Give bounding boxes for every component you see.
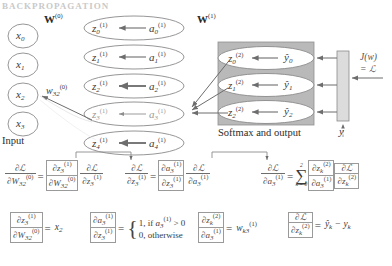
eq3-f1-num: ∂zk(2) [310, 161, 333, 175]
output-node-yhat-label-0: ŷ0 [284, 52, 292, 65]
eq4-equals: = [43, 222, 53, 234]
hidden-node-a-label-1: a1(1) [149, 51, 166, 65]
output-node-yhat-label-2: ŷ2 [284, 106, 292, 119]
hidden-node-z-label-1: z1(1) [92, 51, 107, 65]
eq2-lhs-den: ∂z3(1) [125, 174, 148, 188]
eq1-lhs-num: ∂ℒ [13, 164, 27, 173]
eq3-sum-lower: k = 0 [296, 182, 308, 188]
eq5-den: ∂z3(1) [92, 228, 115, 242]
eq1-equals: = [36, 170, 46, 182]
weight-matrix-0-label: W(0) [44, 13, 63, 25]
forward-fan-faint-2 [40, 100, 96, 140]
eq4-fraction: ∂z3(1) ∂W32(0) [10, 212, 43, 243]
eq3-lhs-num: ∂ℒ [266, 164, 280, 173]
eq6-fraction: ∂zk(2) ∂a3(1) [198, 212, 224, 243]
eq5-num: ∂a3(1) [91, 213, 115, 227]
eq3-equals: = [285, 170, 295, 182]
eq3-factor2-fraction: ∂ℒ ∂zk(2) [334, 163, 359, 189]
eq7-den: ∂zk(2) [289, 223, 312, 237]
equation-5: ∂a3(1) ∂z3(1) = { 1, if a3(1) > 0 0, oth… [90, 212, 185, 243]
loss-bar [337, 51, 349, 121]
eq3-lhs-fraction: ∂ℒ ∂a3(1) [261, 164, 285, 188]
eq2-factor1-fraction: ∂a3(1) ∂z3(1) [158, 160, 184, 191]
eq7-fraction: ∂ℒ ∂zk(2) [288, 212, 313, 238]
eq3-lhs-den: ∂a3(1) [261, 174, 285, 188]
hidden-node-a-label-3: a3(1) [149, 108, 166, 122]
eq1-f2-num: ∂ℒ [85, 164, 99, 173]
eq1-factor1-fraction: ∂z3(1) ∂W32(0) [46, 160, 79, 191]
eq7-rhs: ŷk − yk [323, 219, 351, 231]
chain-connector-2 [212, 152, 267, 160]
hidden-node-a-label-4: a4(1) [149, 137, 166, 151]
hidden-node-a-label-0: a0(1) [149, 22, 166, 36]
equation-6: ∂zk(2) ∂a3(1) = wk3(1) [198, 212, 257, 243]
eq5-fraction: ∂a3(1) ∂z3(1) [90, 212, 116, 243]
hidden-node-z-label-2: z2(1) [92, 80, 107, 94]
eq5-cases: 1, if a3(1) > 0 0, otherwise [139, 215, 185, 240]
eq2-lhs-fraction: ∂ℒ ∂z3(1) [125, 164, 148, 188]
eq2-f1-num: ∂a3(1) [159, 161, 183, 175]
eq3-f1-den: ∂a3(1) [309, 176, 333, 190]
eq5-brace: { [126, 217, 139, 239]
eq1-f1-den: ∂W32(0) [47, 176, 78, 190]
eq4-den: ∂W32(0) [11, 228, 42, 242]
eq2-f2-num: ∂ℒ [191, 164, 205, 173]
page-header-text: BACKPROPAGATION [2, 1, 109, 11]
eq1-lhs-den: ∂W32(0) [5, 174, 36, 188]
eq4-rhs: x2 [53, 222, 63, 234]
eq3-sum-symbol: ∑ [295, 169, 307, 183]
forward-fan-faint [40, 96, 92, 122]
input-layer-caption: Input [2, 136, 24, 147]
eq1-factor2-fraction: ∂ℒ ∂z3(1) [80, 164, 103, 188]
softmax-caption: Softmax and output [218, 128, 301, 139]
input-node-label-3: x3 [16, 118, 24, 131]
target-label-y: y [339, 126, 344, 137]
hidden-node-a-label-2: a2(1) [149, 80, 166, 94]
eq2-f1-den: ∂z3(1) [160, 176, 183, 190]
equation-7: ∂ℒ ∂zk(2) = ŷk − yk [288, 212, 351, 238]
equation-2: ∂ℒ ∂z3(1) = ∂a3(1) ∂z3(1) ∂ℒ ∂a3(1) [125, 160, 210, 191]
eq7-equals: = [313, 219, 323, 231]
eq5-case-2: 0, otherwise [139, 230, 185, 240]
eq6-rhs: wk3(1) [234, 220, 257, 235]
eq3-f2-num: ∂ℒ [340, 164, 354, 173]
objective-label-line1: J(w) [360, 53, 377, 63]
output-node-z-label-2: z2(2) [228, 106, 243, 120]
figure-root: BACKPROPAGATION x0 x1 x2 x3 Input W(0) W… [0, 0, 392, 266]
eq3-f2-den: ∂zk(2) [335, 174, 358, 188]
eq1-f1-num: ∂z3(1) [51, 161, 74, 175]
eq4-num: ∂z3(1) [15, 213, 38, 227]
equation-3: ∂ℒ ∂a3(1) = 2 ∑ k = 0 ∂zk(2) ∂a3(1) ∂ℒ ∂ [261, 160, 359, 191]
eq6-num: ∂zk(2) [200, 213, 223, 227]
eq7-num: ∂ℒ [293, 213, 307, 222]
equation-4: ∂z3(1) ∂W32(0) = x2 [10, 212, 62, 243]
objective-label-line2: = ℒ [360, 65, 376, 75]
eq5-equals: = [116, 222, 126, 234]
eq1-f2-den: ∂z3(1) [80, 174, 103, 188]
hidden-node-z-label-0: z0(1) [92, 22, 107, 36]
eq2-equals: = [148, 170, 158, 182]
hidden-node-z-label-3: z3(1) [92, 108, 107, 122]
hidden-node-z-label-4: z4(1) [92, 137, 107, 151]
eq3-factor1-fraction: ∂zk(2) ∂a3(1) [308, 160, 334, 191]
eq1-lhs-fraction: ∂ℒ ∂W32(0) [5, 164, 36, 188]
output-node-yhat-label-1: ŷ1 [284, 79, 292, 92]
eq6-den: ∂a3(1) [199, 228, 223, 242]
eq2-f2-den: ∂a3(1) [186, 174, 210, 188]
weight-matrix-1-label: W(1) [197, 13, 216, 25]
eq2-lhs-num: ∂ℒ [129, 164, 143, 173]
weight-edge-label-w32: w32(0) [46, 84, 67, 98]
output-node-z-label-0: z0(2) [228, 52, 243, 66]
eq3-summation: 2 ∑ k = 0 [295, 163, 307, 188]
input-node-label-2: x2 [16, 89, 24, 102]
eq6-equals: = [224, 222, 234, 234]
eq2-factor2-fraction: ∂ℒ ∂a3(1) [186, 164, 210, 188]
input-node-label-0: x0 [16, 30, 24, 43]
eq5-case-1: 1, if a3(1) > 0 [139, 215, 185, 230]
output-node-z-label-1: z1(2) [228, 79, 243, 93]
equation-1: ∂ℒ ∂W32(0) = ∂z3(1) ∂W32(0) ∂ℒ ∂z3(1) [5, 160, 103, 191]
input-node-label-1: x1 [16, 59, 24, 72]
